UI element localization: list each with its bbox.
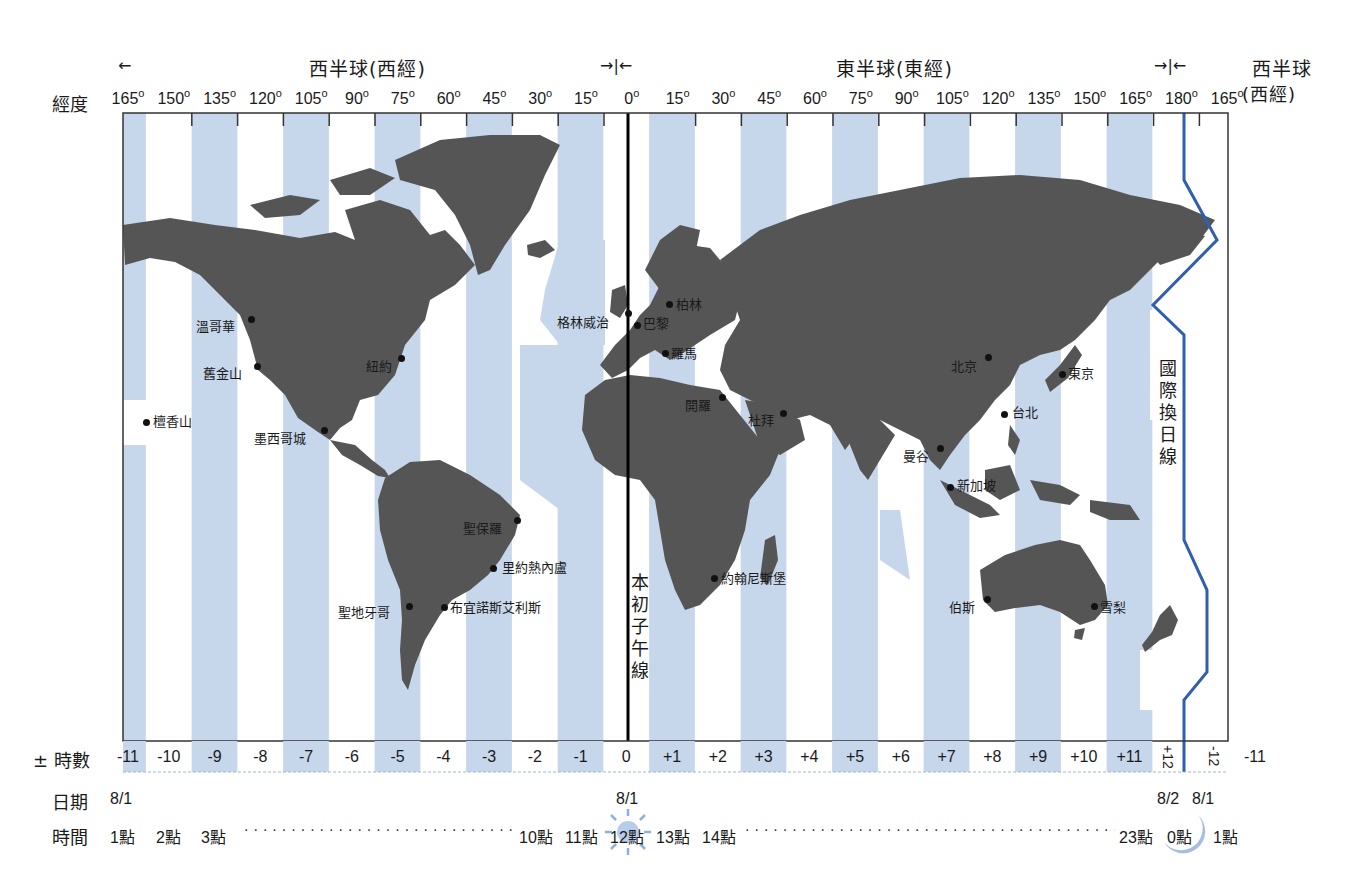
city-dot-icon (666, 301, 673, 308)
time-23: 23點 (1119, 824, 1153, 848)
time-10: 10點 (519, 824, 553, 848)
longitude-label: 165o (112, 90, 145, 108)
longitude-label: 45o (482, 90, 506, 108)
longitude-value: 75 (391, 90, 409, 107)
time-13: 13點 (656, 824, 690, 848)
date-right-b: 8/1 (1192, 790, 1214, 808)
degree-symbol: o (546, 87, 552, 99)
city-dot-icon (1059, 371, 1066, 378)
city-label: 北京 (951, 356, 977, 375)
longitude-value: 60 (803, 90, 821, 107)
date-right-a: 8/2 (1157, 790, 1179, 808)
longitude-label: 90o (895, 90, 919, 108)
longitude-value: 45 (757, 90, 775, 107)
city-label: 曼谷 (903, 446, 929, 465)
offset-cell: +10 (1061, 741, 1107, 772)
longitude-value: 90 (895, 90, 913, 107)
city-dot-icon (719, 394, 726, 401)
west-longitude-label-right: (西經) (1242, 80, 1296, 106)
label-char: 換 (1158, 402, 1178, 424)
city-label: 溫哥華 (196, 316, 235, 335)
longitude-value: 30 (711, 90, 729, 107)
longitude-label: 135o (203, 90, 236, 108)
longitude-value: 165 (1211, 90, 1238, 107)
time-1-next: 1點 (1213, 824, 1238, 848)
degree-symbol: o (1146, 87, 1152, 99)
west-hemisphere-label: 西半球(西經) (309, 54, 426, 81)
longitude-label: 90o (345, 90, 369, 108)
degree-symbol: o (321, 87, 327, 99)
degree-symbol: o (363, 87, 369, 99)
label-char: 子 (630, 616, 650, 638)
city-label: 杜拜 (748, 410, 774, 429)
east-hemisphere-label: 東半球(東經) (836, 54, 953, 81)
longitude-value: 105 (936, 90, 963, 107)
offset-cell: -4 (420, 741, 466, 772)
longitude-value: 60 (437, 90, 455, 107)
time-14: 14點 (702, 824, 736, 848)
offset-cell: -11 (110, 741, 146, 772)
longitude-label: 120o (249, 90, 282, 108)
degree-symbol: o (729, 87, 735, 99)
city-label: 東京 (1068, 363, 1094, 382)
longitude-value: 135 (203, 90, 230, 107)
longitude-value: 90 (345, 90, 363, 107)
offset-cell: +11 (1107, 741, 1153, 772)
degree-symbol: o (409, 87, 415, 99)
city-label: 台北 (1012, 402, 1038, 421)
city-label: 舊金山 (203, 363, 242, 382)
longitude-label: 30o (711, 90, 735, 108)
offset-cell: +9 (1015, 741, 1061, 772)
city-label: 聖地牙哥 (338, 602, 390, 621)
label-char: 本 (630, 572, 650, 594)
city-label: 伯斯 (949, 597, 975, 616)
city-dot-icon (947, 484, 954, 491)
offset-cell: -5 (375, 741, 421, 772)
degree-symbol: o (1008, 87, 1014, 99)
longitude-label: 0o (624, 90, 639, 108)
time-12: 12點 (610, 824, 644, 848)
time-row-label: 時間 (52, 823, 88, 849)
city-dot-icon (143, 419, 150, 426)
offset-cell: +12 (1152, 741, 1184, 772)
label-char: 初 (630, 594, 650, 616)
city-label: 柏林 (676, 294, 702, 313)
city-dot-icon (984, 596, 991, 603)
label-char: 午 (630, 638, 650, 660)
degree-symbol: o (276, 87, 282, 99)
longitude-label: 45o (757, 90, 781, 108)
degree-symbol: o (867, 87, 873, 99)
offset-cell: -12 (1184, 741, 1244, 772)
offset-row-label: ± 時數 (33, 746, 90, 772)
city-label: 格林威治 (557, 312, 609, 331)
degree-symbol: o (633, 87, 639, 99)
offset-cell: +6 (878, 741, 924, 772)
city-label: 約翰尼斯堡 (721, 568, 786, 587)
ellipsis-left: ········································… (244, 822, 514, 838)
date-center: 8/1 (616, 790, 638, 808)
longitude-label: 150o (1073, 90, 1106, 108)
longitude-value: 120 (982, 90, 1009, 107)
offset-cell: -10 (146, 741, 192, 772)
date-row-label: 日期 (52, 788, 88, 814)
longitude-row-label: 經度 (52, 90, 88, 116)
city-dot-icon (254, 363, 261, 370)
longitude-value: 45 (482, 90, 500, 107)
offset-cell: +7 (924, 741, 970, 772)
longitude-label: 180o (1165, 90, 1198, 108)
time-11: 11點 (565, 824, 598, 848)
city-dot-icon (780, 410, 787, 417)
longitude-label: 165o (1211, 90, 1244, 108)
prime-meridian-label: 本初子午線 (630, 572, 650, 682)
degree-symbol: o (230, 87, 236, 99)
degree-symbol: o (683, 87, 689, 99)
longitude-value: 135 (1028, 90, 1055, 107)
longitude-value: 75 (849, 90, 867, 107)
degree-symbol: o (821, 87, 827, 99)
degree-symbol: o (1054, 87, 1060, 99)
converge-arrow-icon-dateline: →|← (1154, 56, 1186, 75)
longitude-value: 105 (295, 90, 322, 107)
offset-cell: -1 (558, 741, 604, 772)
time-3: 3點 (201, 824, 226, 848)
city-label: 墨西哥城 (254, 428, 306, 447)
